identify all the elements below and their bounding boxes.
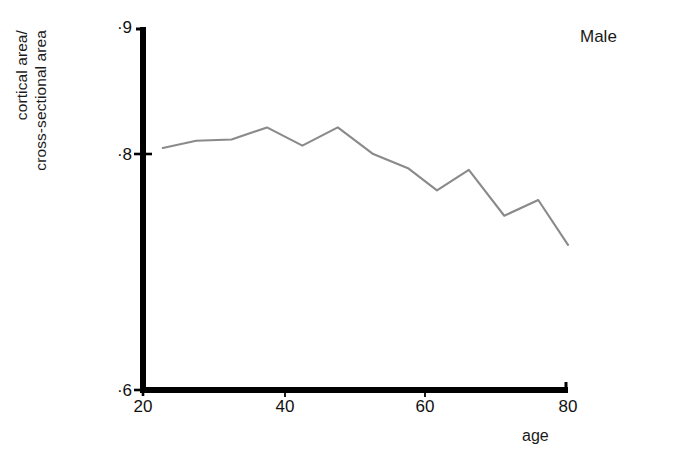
axes [134, 27, 568, 397]
plot-svg [0, 0, 675, 459]
data-series-male [163, 127, 568, 244]
series-line-male [163, 127, 568, 244]
chart-page: cortical area/ cross-sectional area ·9 ·… [0, 0, 675, 459]
chart-figure: cortical area/ cross-sectional area ·9 ·… [0, 0, 675, 459]
